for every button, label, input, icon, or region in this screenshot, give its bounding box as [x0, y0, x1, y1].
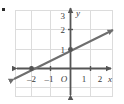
x-axis-variable-label: x: [107, 74, 112, 84]
x-tick-label-neg1: –1: [44, 74, 54, 84]
point-y-intercept: [68, 47, 73, 52]
x-tick-label-neg2: –2: [26, 74, 36, 84]
point-x-intercept: [29, 66, 34, 71]
y-tick-label-3: 3: [61, 11, 66, 21]
graph-figure: –2 –1 1 2 O 1 2 3 x y: [0, 0, 124, 104]
y-axis-variable-label: y: [75, 8, 80, 18]
x-tick-label-2: 2: [98, 74, 103, 84]
y-tick-label-2: 2: [61, 25, 66, 35]
coordinate-plane-graph: –2 –1 1 2 O 1 2 3 x y: [0, 0, 124, 104]
y-tick-label-1: 1: [61, 45, 66, 55]
x-tick-label-1: 1: [82, 74, 87, 84]
origin-label: O: [61, 74, 68, 84]
